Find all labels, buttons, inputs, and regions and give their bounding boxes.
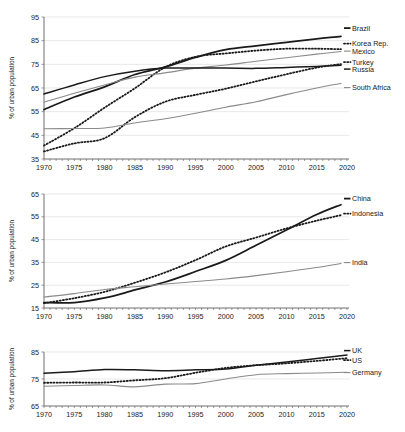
series-group [44,205,341,303]
x-tick-label: 2005 [248,410,264,419]
series-group [44,36,341,151]
y-axis-title: % of urban population [8,219,16,282]
tick-labels: 3545556575859519701975198019851990199520… [31,13,355,172]
x-tick-label: 2010 [278,163,294,172]
series-line-brazil [44,36,341,109]
x-tick-label: 2000 [218,410,234,419]
legend-label-mexico: Mexico [352,47,375,56]
x-tick-label: 2010 [278,312,294,321]
x-tick-label: 2015 [309,410,325,419]
x-tick-label: 2020 [339,410,355,419]
y-tick-label: 25 [31,281,39,290]
legend-label-indonesia: Indonesia [352,209,383,218]
series-line-india [44,264,341,298]
series-line-korea-rep [44,49,341,146]
series-line-south-africa [44,84,341,129]
y-tick-label: 85 [31,348,39,357]
x-tick-label: 1980 [97,312,113,321]
gridlines [44,352,349,379]
line-chart-2: 1525354555651970197519801985199019952000… [0,180,405,330]
line-chart-1: 3545556575859519701975198019851990199520… [0,0,405,180]
x-tick-label: 2020 [339,163,355,172]
legend-label-india: India [352,258,368,267]
x-tick-label: 1975 [66,410,82,419]
legend-label-china: China [352,194,371,203]
y-tick-label: 45 [31,131,39,140]
x-tick-label: 1995 [188,410,204,419]
x-tick-label: 2005 [248,312,264,321]
legend-label-brazil: Brazil [352,24,370,33]
x-tick-label: 2005 [248,163,264,172]
series-line-germany [44,372,347,387]
series-line-turkey [44,64,341,151]
x-tick-label: 1970 [36,312,52,321]
y-tick-label: 45 [31,235,39,244]
x-tick-label: 1985 [127,163,143,172]
y-tick-label: 55 [31,212,39,221]
x-tick-label: 1985 [127,410,143,419]
x-tick-label: 1990 [157,312,173,321]
x-tick-label: 2010 [278,410,294,419]
chart-panel-3: 6575851970197519801985199019952000200520… [0,330,405,432]
x-tick-label: 2000 [218,312,234,321]
series-line-china [44,205,341,303]
y-tick-label: 75 [31,60,39,69]
axes [42,194,350,310]
series-line-indonesia [44,215,341,303]
series-line-uk [44,355,347,373]
legend: BrazilKorea Rep.MexicoTurkeyRussiaSouth … [344,24,391,93]
y-tick-label: 85 [31,36,39,45]
x-tick-label: 1985 [127,312,143,321]
legend-label-russia: Russia [352,65,374,74]
y-axis-title: % of urban population [8,347,16,410]
y-tick-label: 95 [31,13,39,22]
y-axis-title: % of urban population [8,56,16,119]
x-tick-label: 1980 [97,410,113,419]
x-tick-label: 2015 [309,163,325,172]
x-tick-label: 1970 [36,410,52,419]
x-tick-label: 1995 [188,312,204,321]
figure-root: 3545556575859519701975198019851990199520… [0,0,405,432]
legend-label-germany: Germany [352,368,382,377]
x-tick-label: 1975 [66,312,82,321]
x-tick-label: 1975 [66,163,82,172]
x-tick-label: 2000 [218,163,234,172]
y-tick-label: 75 [31,375,39,384]
y-tick-label: 55 [31,107,39,116]
x-tick-label: 1990 [157,163,173,172]
y-tick-label: 65 [31,190,39,199]
line-chart-3: 6575851970197519801985199019952000200520… [0,330,405,432]
y-tick-label: 35 [31,258,39,267]
x-tick-label: 1980 [97,163,113,172]
x-tick-label: 1970 [36,163,52,172]
legend-label-us: US [352,356,362,365]
x-tick-label: 1995 [188,163,204,172]
x-tick-label: 2015 [309,312,325,321]
chart-panel-2: 1525354555651970197519801985199019952000… [0,180,405,330]
legend-label-uk: UK [352,346,362,355]
chart-panel-1: 3545556575859519701975198019851990199520… [0,0,405,180]
x-tick-label: 1990 [157,410,173,419]
x-tick-label: 2020 [339,312,355,321]
y-tick-label: 65 [31,84,39,93]
legend: ChinaIndonesiaIndia [344,194,383,267]
legend: UKUSGermany [344,346,382,377]
series-group [44,355,347,387]
legend-label-south-africa: South Africa [352,83,391,92]
